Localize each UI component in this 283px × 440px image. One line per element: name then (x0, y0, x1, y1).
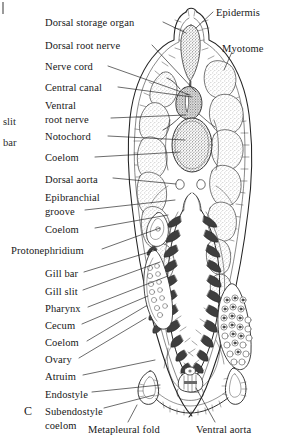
label-coelom-mid: Coelom (45, 224, 79, 236)
epibranchial-groove-shape (183, 193, 201, 211)
metapleural-fold-right (222, 368, 247, 404)
edge-fragment-bar: bar (3, 137, 16, 148)
label-dorsal-root-nerve: Dorsal root nerve (45, 40, 120, 52)
leader-line (196, 12, 213, 28)
label-ventral: Ventral (45, 100, 76, 112)
label-endostyle: Endostyle (45, 389, 88, 401)
label-metapleural-fold: Metapleural fold (88, 424, 160, 436)
edge-fragment-slit: slit (3, 116, 16, 127)
label-gill-slit: Gill slit (45, 286, 78, 298)
label-notochord: Notochord (45, 131, 91, 143)
label-coelom-dorsal: Coelom (45, 152, 79, 164)
label-central-canal: Central canal (45, 82, 102, 94)
label-coelom-ventral: Coelom (45, 337, 79, 349)
label-nerve-cord: Nerve cord (45, 61, 93, 73)
leader-line (82, 296, 148, 324)
label-cecum: Cecum (45, 320, 75, 332)
gill-bars-central-right (193, 216, 221, 373)
label-epibranchial: Epibranchial (45, 192, 100, 204)
label-atrium: Atruim (45, 371, 76, 383)
page-edge-tick (2, 2, 4, 14)
ventral-aorta-shape (185, 367, 196, 375)
notochord-shape (166, 118, 219, 172)
label-gill-bar: Gill bar (45, 268, 78, 280)
label-dorsal-storage-organ: Dorsal storage organ (45, 17, 134, 29)
label-epidermis: Epidermis (216, 7, 260, 19)
label-ventral-root-nerve: root nerve (45, 114, 89, 126)
label-protonephridium: Protonephridium (11, 245, 84, 257)
leader-line (83, 360, 155, 375)
dorsal-aorta-shape (176, 180, 205, 190)
label-subendostyle-coelom: coelom (45, 420, 77, 432)
label-dorsal-aorta: Dorsal aorta (45, 174, 98, 186)
label-subendostyle: Subendostyle (45, 406, 103, 418)
central-canal-shape (185, 95, 188, 112)
label-ovary: Ovary (45, 354, 72, 366)
anatomical-diagram (0, 0, 283, 440)
label-myotome: Myotome (222, 43, 264, 55)
label-pharynx: Pharynx (45, 303, 81, 315)
figure-panel-mark: C (24, 404, 32, 419)
dorsal-storage-organ-shape (181, 25, 200, 92)
ovary-shape (218, 284, 252, 370)
label-epibranchial-groove: groove (45, 206, 75, 218)
leader-line (108, 66, 190, 95)
leader-line (128, 405, 137, 422)
leader-line (79, 318, 146, 358)
label-ventral-aorta: Ventral aorta (196, 424, 251, 436)
